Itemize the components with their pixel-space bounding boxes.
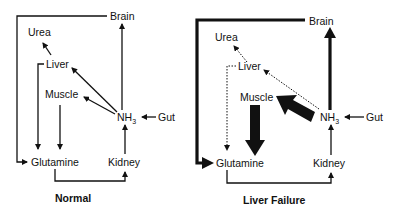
edge-nh3-to-brain-head (324, 27, 336, 38)
node-brain: Brain (309, 15, 334, 27)
node-gut: Gut (158, 111, 175, 123)
node-brain: Brain (110, 10, 135, 22)
caption-liver-failure: Liver Failure (243, 194, 306, 206)
ammonia-metabolism-diagram: Brain Urea Liver Muscle NH3 Gut Glutamin… (0, 0, 398, 213)
node-nh3: NH3 (320, 111, 339, 125)
node-glutamine: Glutamine (216, 157, 264, 169)
edge-liver-to-urea (43, 43, 51, 55)
node-muscle: Muscle (240, 91, 273, 103)
edge-glutamine-to-kidney (55, 169, 125, 181)
edge-muscle-to-glutamine (245, 105, 265, 156)
node-kidney: Kidney (108, 156, 141, 168)
node-urea: Urea (215, 31, 238, 43)
edge-nh3-to-liver (72, 68, 117, 112)
node-nh3: NH3 (117, 111, 136, 125)
node-kidney: Kidney (313, 157, 346, 169)
caption-normal: Normal (55, 192, 91, 204)
node-liver: Liver (46, 58, 69, 70)
edge-nh3-to-muscle (276, 95, 315, 122)
node-glutamine: Glutamine (31, 156, 79, 168)
panel-liver-failure: Brain Urea Liver Muscle NH3 Gut Glutamin… (197, 15, 383, 206)
edge-liver-to-glutamine (38, 64, 44, 149)
node-urea: Urea (28, 26, 51, 38)
node-liver: Liver (238, 60, 261, 72)
node-muscle: Muscle (45, 88, 78, 100)
panel-normal: Brain Urea Liver Muscle NH3 Gut Glutamin… (17, 10, 175, 204)
edge-brain-to-glutamine-head (202, 157, 214, 169)
edge-glutamine-to-kidney (227, 170, 331, 183)
node-gut: Gut (366, 111, 383, 123)
edge-liver-to-glutamine (227, 66, 236, 150)
